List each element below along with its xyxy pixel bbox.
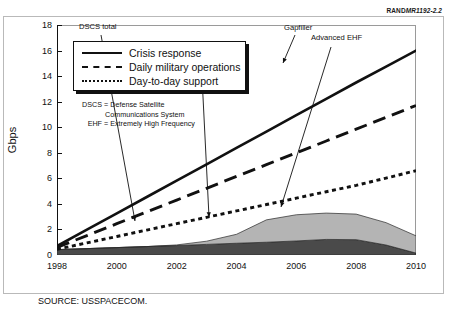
rand-report-id: RANDMR1192-2.2 <box>387 7 442 14</box>
leader-advanced-ehf-head <box>280 202 284 207</box>
figure-chart-satellite-demand-capacity: RANDMR1192-2.2 Gbps DSCS total MILSTAR G… <box>0 0 450 313</box>
y-tick-label: 6 <box>30 173 52 183</box>
note-equals: = <box>104 119 108 128</box>
legend-label: Day-to-day support <box>129 75 218 87</box>
chart-legend: Crisis response Daily military operation… <box>73 41 246 91</box>
capacity-areas <box>57 213 416 255</box>
annotation-gapfiller: Gapfiller <box>284 23 312 32</box>
y-tick-label: 8 <box>30 148 52 158</box>
y-tick-mark <box>57 25 62 26</box>
y-tick-label: 18 <box>30 20 52 30</box>
y-tick-mark <box>57 51 62 52</box>
x-tick-label: 1998 <box>47 261 67 271</box>
annotation-dscs-total: DSCS total <box>79 22 117 31</box>
y-tick-label: 14 <box>30 71 52 81</box>
rand-report-id-number: MR1192-2.2 <box>406 7 442 14</box>
y-tick-mark <box>57 127 62 128</box>
legend-swatch-solid-icon <box>82 48 122 58</box>
y-tick-mark <box>57 229 62 230</box>
leader-advanced-ehf <box>281 47 331 207</box>
note-text: Defense Satellite <box>110 100 164 109</box>
legend-item-day-to-day-support: Day-to-day support <box>82 74 239 88</box>
note-equals: = <box>104 100 108 109</box>
annotation-advanced-ehf: Advanced EHF <box>311 33 362 42</box>
source-note: SOURCE: USSPACECOM. <box>38 296 147 306</box>
note-key: EHF <box>72 119 102 129</box>
y-axis-label: Gbps <box>6 127 18 153</box>
legend-item-daily-military-operations: Daily military operations <box>82 60 239 74</box>
y-tick-mark <box>57 153 62 154</box>
x-tick-label: 2008 <box>346 261 366 271</box>
y-tick-label: 0 <box>30 250 52 260</box>
x-tick-label: 2004 <box>226 261 246 271</box>
note-text: Extremely High Frequency <box>110 119 195 128</box>
y-tick-mark <box>57 102 62 103</box>
legend-label: Crisis response <box>129 47 201 59</box>
rand-report-id-prefix: RAND <box>387 7 406 14</box>
x-tick-label: 2010 <box>406 261 426 271</box>
abbreviation-notes: DSCS = Defense Satellite Communications … <box>72 100 195 129</box>
y-tick-mark <box>57 178 62 179</box>
y-tick-label: 12 <box>30 97 52 107</box>
note-dscs-continuation: Communications System <box>72 110 195 120</box>
x-tick-label: 2000 <box>107 261 127 271</box>
legend-label: Daily military operations <box>129 61 240 73</box>
y-tick-mark <box>57 204 62 205</box>
x-tick-label: 2002 <box>167 261 187 271</box>
y-tick-label: 4 <box>30 199 52 209</box>
legend-swatch-dashed-icon <box>82 62 122 72</box>
note-key: DSCS <box>72 100 102 110</box>
y-tick-mark <box>57 76 62 77</box>
note-dscs: DSCS = Defense Satellite <box>72 100 195 110</box>
legend-item-crisis-response: Crisis response <box>82 46 239 60</box>
note-ehf: EHF = Extremely High Frequency <box>72 119 195 129</box>
x-tick-label: 2006 <box>286 261 306 271</box>
y-tick-label: 10 <box>30 122 52 132</box>
y-tick-label: 2 <box>30 224 52 234</box>
y-tick-label: 16 <box>30 46 52 56</box>
legend-swatch-dotted-icon <box>82 76 122 86</box>
